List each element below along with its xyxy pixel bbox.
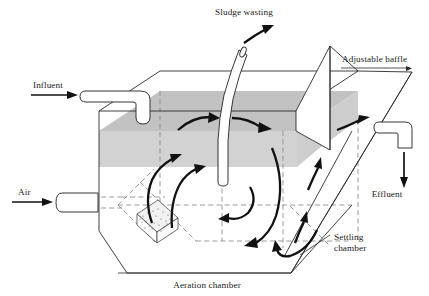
label-aeration-chamber: Aeration chamber xyxy=(173,280,241,290)
air-pipe-body[interactable] xyxy=(56,193,98,212)
effluent-arrow-head xyxy=(400,177,408,188)
air-direction-arrow xyxy=(12,198,53,206)
flow-arrow-bottom-hook-head xyxy=(272,240,282,252)
effluent-pipe[interactable] xyxy=(374,122,412,148)
water-front-face xyxy=(99,131,297,167)
label-adjustable-baffle: Adjustable baffle xyxy=(342,54,407,64)
flow-arrow-main-right-head xyxy=(244,237,258,248)
influent-arrow-head xyxy=(67,91,78,99)
label-effluent: Effluent xyxy=(372,189,403,199)
influent-pipe-body[interactable] xyxy=(80,91,150,124)
label-air: Air xyxy=(18,187,31,197)
label-settling-chamber-line2: chamber xyxy=(334,243,366,253)
tank-front-left-slope xyxy=(99,231,127,273)
influent-direction-arrow xyxy=(31,91,78,99)
influent-pipe[interactable] xyxy=(80,91,150,124)
flow-arrow-settling-rise-lower-head xyxy=(300,211,308,223)
label-settling-chamber-line1: Settling xyxy=(334,232,364,242)
baffle-leader-head xyxy=(406,66,412,71)
flow-arrow-sludge-out xyxy=(244,29,266,43)
label-influent: Influent xyxy=(33,80,63,90)
flow-arrow-sludge-out-head xyxy=(262,25,274,34)
air-pipe[interactable] xyxy=(56,193,98,212)
settling-leader-line xyxy=(300,235,330,255)
effluent-direction-arrow xyxy=(400,152,408,188)
air-arrow-head xyxy=(42,198,53,206)
flow-arrow-inner-arc xyxy=(228,187,254,219)
flow-arrow-settling-rise-upper xyxy=(308,168,318,190)
flow-arrow-settling-rise-upper-head xyxy=(314,157,322,169)
flow-arrow-settling-rise-lower xyxy=(295,222,304,243)
tank-diagram: Sludge wasting Adjustable baffle Influen… xyxy=(0,0,429,296)
figure-root: Sludge wasting Adjustable baffle Influen… xyxy=(0,0,429,296)
tank-right-endcap xyxy=(358,71,412,72)
label-sludge-wasting: Sludge wasting xyxy=(215,7,273,17)
effluent-pipe-body[interactable] xyxy=(374,122,412,148)
flow-arrow-inner-arc-head xyxy=(218,213,229,223)
flow-arrow-to-settling-head xyxy=(357,115,370,124)
